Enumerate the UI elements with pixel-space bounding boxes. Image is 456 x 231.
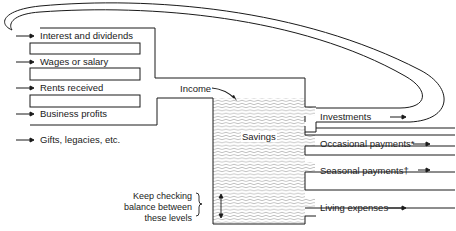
savings-label: Savings <box>241 132 277 142</box>
balance-note-line-1: Keep checking <box>110 191 192 202</box>
source-arrows <box>16 34 34 142</box>
income-label: Income <box>180 84 211 94</box>
outflow-investments: Investments <box>320 112 371 122</box>
divider-1 <box>30 43 140 54</box>
balance-note-line-3: these levels <box>110 213 192 224</box>
balance-note-line-2: balance between <box>110 202 192 213</box>
divider-2 <box>30 68 140 80</box>
source-rents-received: Rents received <box>40 83 103 93</box>
source-business-profits: Business profits <box>40 109 107 119</box>
divider-3 <box>30 95 140 107</box>
outflow-living-expenses: Living expenses <box>320 203 388 213</box>
source-interest-dividends: Interest and dividends <box>40 31 133 41</box>
brace-icon <box>196 193 202 216</box>
savings-water <box>213 98 315 224</box>
balance-note: Keep checking balance between these leve… <box>110 191 192 224</box>
source-gifts-legacies: Gifts, legacies, etc. <box>40 135 120 145</box>
outflow-occasional-payments: Occasional payments* <box>320 139 415 149</box>
source-wages-salary: Wages or salary <box>40 57 108 67</box>
outflow-seasonal-payments: Seasonal payments† <box>320 166 409 176</box>
outflow-arrows <box>387 115 430 210</box>
